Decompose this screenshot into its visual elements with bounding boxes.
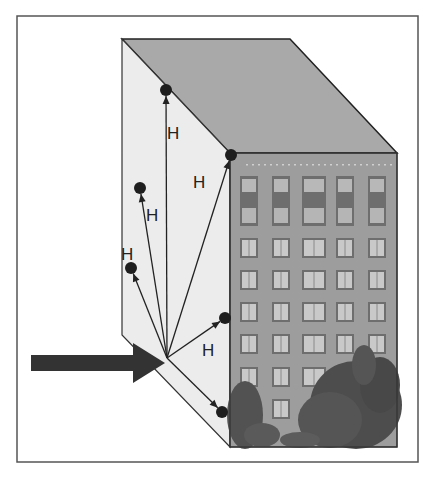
distance-label-h: H (121, 245, 133, 264)
building-facade-photo (227, 153, 402, 449)
distance-label-h: H (202, 341, 214, 360)
building-ray-diagram: HHHHH (0, 0, 432, 482)
distance-label-h: H (146, 206, 158, 225)
distance-label-h: H (167, 124, 179, 143)
distance-label-h: H (193, 173, 205, 192)
diagram-stage: HHHHH (0, 0, 432, 482)
endpoint-dot (216, 406, 228, 418)
endpoint-dot (134, 182, 146, 194)
endpoint-dot (225, 149, 237, 161)
endpoint-dot (219, 312, 231, 324)
endpoint-dot (160, 84, 172, 96)
